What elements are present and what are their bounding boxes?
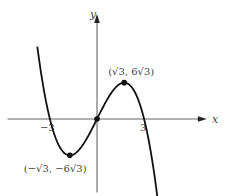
local-max-point bbox=[121, 80, 127, 86]
y-axis-label: y bbox=[89, 8, 97, 21]
origin-point bbox=[94, 116, 100, 122]
local-min-point bbox=[67, 153, 73, 159]
x-axis-label: x bbox=[212, 113, 219, 126]
x-axis-arrow-icon bbox=[198, 116, 207, 122]
local-max-label: (√3, 6√3) bbox=[108, 66, 154, 77]
local-min-label: (−√3, −6√3) bbox=[24, 163, 87, 174]
chart: x y −3 3 (−√3, −6√3) (√3, 6√3) bbox=[0, 0, 227, 196]
